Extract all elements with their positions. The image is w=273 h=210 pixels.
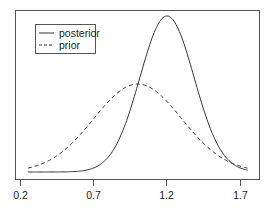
x-axis: 0.2 0.7 1.2 1.7 xyxy=(13,180,248,201)
x-tick-label: 0.7 xyxy=(86,189,101,201)
legend: posterior prior xyxy=(36,25,101,54)
x-tick-label: 1.7 xyxy=(233,189,248,201)
density-chart: posterior prior 0.2 0.7 1.2 1.7 xyxy=(0,0,273,210)
x-tick-label: 1.2 xyxy=(159,189,174,201)
x-tick-label: 0.2 xyxy=(13,189,28,201)
legend-label-prior: prior xyxy=(59,39,81,51)
prior-curve xyxy=(28,84,248,168)
legend-label-posterior: posterior xyxy=(59,27,100,39)
